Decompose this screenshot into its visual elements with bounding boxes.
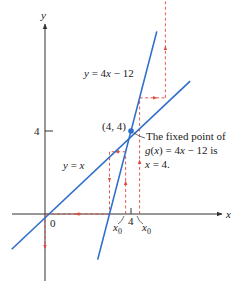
label-identity: y = x [62,159,85,171]
x0-label-right: x0 [141,221,151,236]
x-tick-label-4: 4 [128,215,134,227]
origin-label: 0 [50,217,56,229]
y-tick-label-4: 4 [34,125,40,137]
x0-label-left: x0 [112,221,122,236]
annotation-line-1: The fixed point of [146,130,226,142]
cobweb-diagram: x y 0 4 4 y = 4x − 12 y = x (4, 4) The f… [0,0,244,283]
annotation-line-3: x = 4. [144,158,170,170]
x-axis-label: x [225,208,231,220]
annotation-line-2: g(x) = 4x − 12 is [145,144,218,157]
x0-leader-left [118,216,124,224]
fixed-point-label: (4, 4) [102,120,126,133]
y-axis-label: y [40,9,46,21]
fixed-point-marker [128,128,134,134]
label-g: y = 4x − 12 [83,67,134,79]
